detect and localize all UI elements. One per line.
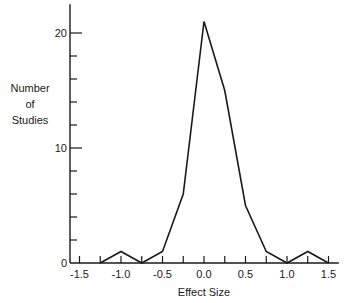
- x-tick-label: 0.0: [196, 268, 211, 280]
- effect-size-frequency-line: [100, 22, 328, 264]
- x-tick-label: -1.5: [70, 268, 89, 280]
- x-tick-label: 0.5: [238, 268, 253, 280]
- frequency-polygon-chart: 01020 -1.5-1.0-0.50.00.51.01.5 Effect Si…: [0, 0, 350, 303]
- y-axis-title: NumberofStudies: [10, 82, 49, 126]
- y-axis-title-line: Studies: [12, 114, 49, 126]
- y-axis-title-line: of: [25, 98, 35, 110]
- x-tick-label: -0.5: [153, 268, 172, 280]
- x-tick-label: 1.0: [279, 268, 294, 280]
- y-tick-label: 20: [55, 27, 67, 39]
- x-tick-label: 1.5: [321, 268, 336, 280]
- y-tick-label: 0: [61, 257, 67, 269]
- y-tick-label: 10: [55, 142, 67, 154]
- x-axis: -1.5-1.0-0.50.00.51.01.5: [70, 256, 339, 280]
- x-tick-label: -1.0: [112, 268, 131, 280]
- y-axis: 01020: [55, 4, 82, 269]
- y-axis-title-line: Number: [10, 82, 49, 94]
- x-axis-title: Effect Size: [178, 286, 230, 298]
